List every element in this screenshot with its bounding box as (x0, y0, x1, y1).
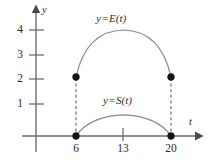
x-tick-label-13: 13 (112, 143, 134, 155)
point-S-left (73, 133, 80, 140)
curve-label-upper-eq: = (101, 12, 109, 24)
y-axis-label: y (42, 5, 47, 16)
point-E-left (73, 74, 80, 81)
x-axis-group (22, 132, 204, 141)
point-E-right (168, 74, 175, 81)
x-tick-label-20: 20 (160, 143, 182, 155)
curve-label-upper: y=E(t) (96, 13, 126, 24)
point-S-right (168, 133, 175, 140)
y-axis-arrowhead (32, 5, 40, 14)
plot-canvas (0, 0, 210, 161)
y-tick-label-2: 2 (9, 73, 23, 85)
x-axis-arrowhead (195, 132, 204, 141)
y-tick-label-4: 4 (9, 24, 23, 36)
graph-figure: y t 4 3 2 1 6 13 20 y=E(t) y=S(t) (0, 0, 210, 161)
curve-label-lower-eq: = (108, 94, 116, 106)
curve-label-upper-fn: E(t) (109, 12, 126, 24)
y-tick-label-1: 1 (9, 98, 23, 110)
x-axis-label: t (189, 117, 192, 128)
curve-label-lower-fn: S(t) (116, 94, 132, 106)
y-tick-label-3: 3 (9, 49, 23, 61)
drop-lines-group (76, 78, 171, 135)
curve-label-lower: y=S(t) (103, 95, 132, 106)
y-axis-group (32, 5, 40, 153)
x-tick-label-6: 6 (65, 143, 87, 155)
curve-upper-E (76, 30, 171, 77)
